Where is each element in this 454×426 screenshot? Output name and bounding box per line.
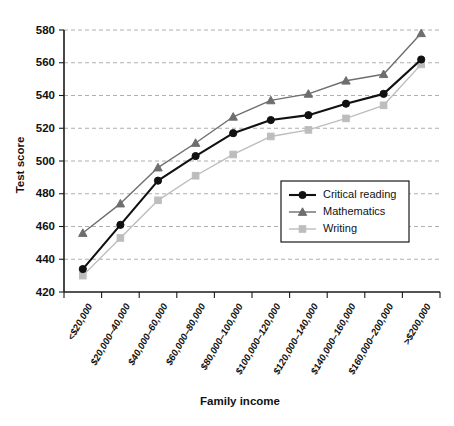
data-point-marker bbox=[299, 191, 306, 198]
data-point-marker bbox=[192, 152, 199, 159]
x-axis-tick-label: $20,000–40,000 bbox=[87, 301, 132, 368]
y-axis-tick-label: 500 bbox=[36, 155, 55, 167]
x-axis-tick-label: $60,000–80,000 bbox=[163, 301, 208, 368]
data-point-marker bbox=[230, 151, 237, 158]
chart-container: 420440460480500520540560580 <$20,000$20,… bbox=[0, 0, 454, 426]
data-point-marker bbox=[155, 197, 162, 204]
data-point-marker bbox=[154, 177, 161, 184]
data-point-marker bbox=[154, 163, 162, 171]
y-axis-tick-label: 580 bbox=[36, 24, 55, 36]
series-writing bbox=[80, 61, 425, 279]
legend-label: Mathematics bbox=[323, 205, 386, 217]
data-point-marker bbox=[418, 56, 425, 63]
data-point-marker bbox=[305, 127, 312, 134]
y-axis-tick-label: 480 bbox=[36, 187, 55, 199]
y-axis-tick-label: 460 bbox=[36, 220, 55, 232]
data-point-marker bbox=[343, 115, 350, 122]
x-axis-tick-label: >$200,000 bbox=[401, 301, 434, 347]
series-line bbox=[83, 64, 421, 275]
legend-label: Writing bbox=[323, 222, 357, 234]
x-axis-ticks-group: <$20,000$20,000–40,000$40,000–60,000$60,… bbox=[64, 292, 440, 377]
data-point-marker bbox=[230, 130, 237, 137]
data-point-marker bbox=[268, 133, 275, 140]
data-point-marker bbox=[299, 226, 306, 233]
data-point-marker bbox=[380, 90, 387, 97]
data-point-marker bbox=[117, 235, 124, 242]
y-axis-title: Test score bbox=[14, 137, 26, 194]
data-point-marker bbox=[191, 139, 199, 147]
x-axis-title: Family income bbox=[200, 395, 280, 407]
y-axis-tick-label: 560 bbox=[36, 56, 55, 68]
x-axis-tick-label: <$20,000 bbox=[65, 301, 95, 342]
data-point-marker bbox=[342, 100, 349, 107]
data-point-marker bbox=[192, 172, 199, 179]
y-axis-tick-label: 540 bbox=[36, 89, 55, 101]
test-score-by-family-income-line-chart: 420440460480500520540560580 <$20,000$20,… bbox=[0, 0, 454, 426]
data-point-marker bbox=[267, 116, 274, 123]
x-axis-tick-label: $40,000–60,000 bbox=[125, 301, 170, 368]
y-axis-tick-label: 440 bbox=[36, 253, 55, 265]
data-point-marker bbox=[229, 113, 237, 121]
chart-legend: Critical readingMathematicsWriting bbox=[281, 181, 409, 242]
y-axis-ticks-group: 420440460480500520540560580 bbox=[36, 24, 64, 298]
data-point-marker bbox=[80, 272, 87, 279]
data-point-marker bbox=[117, 221, 124, 228]
data-point-marker bbox=[305, 112, 312, 119]
legend-label: Critical reading bbox=[323, 188, 396, 200]
data-point-marker bbox=[380, 102, 387, 109]
y-axis-tick-label: 420 bbox=[36, 286, 55, 298]
y-axis-tick-label: 520 bbox=[36, 122, 55, 134]
data-point-marker bbox=[79, 265, 86, 272]
